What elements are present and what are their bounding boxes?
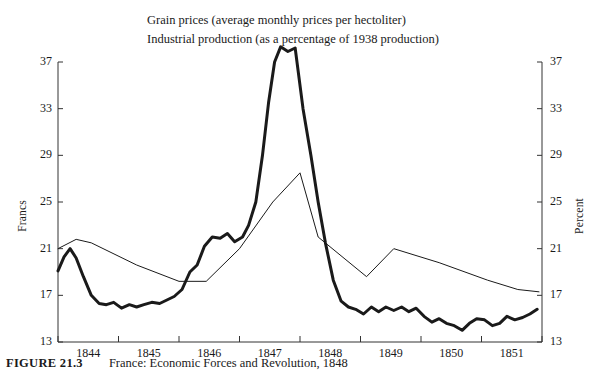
y-tick-left-21: 21 bbox=[26, 241, 52, 256]
figure-number: FIGURE 21.3 bbox=[6, 356, 83, 370]
y-tick-left-29: 29 bbox=[26, 147, 52, 162]
y-tick-right-13: 13 bbox=[550, 334, 576, 349]
figure-container: Grain prices (average monthly prices per… bbox=[0, 0, 598, 371]
series-line-grain bbox=[58, 47, 537, 331]
y-tick-left-33: 33 bbox=[26, 101, 52, 116]
x-tick-1851: 1851 bbox=[483, 346, 541, 361]
y-tick-left-25: 25 bbox=[26, 194, 52, 209]
y-tick-right-37: 37 bbox=[550, 54, 576, 69]
plot-area bbox=[0, 0, 598, 371]
chart-svg bbox=[0, 0, 598, 371]
x-tick-1850: 1850 bbox=[422, 346, 480, 361]
y-tick-left-17: 17 bbox=[26, 287, 52, 302]
y-tick-left-37: 37 bbox=[26, 54, 52, 69]
y-tick-right-17: 17 bbox=[550, 287, 576, 302]
figure-caption-text: France: Economic Forces and Revolution, … bbox=[109, 356, 348, 370]
y-tick-right-33: 33 bbox=[550, 101, 576, 116]
y-tick-right-21: 21 bbox=[550, 241, 576, 256]
series-line-industrial bbox=[58, 173, 539, 292]
y-tick-right-29: 29 bbox=[550, 147, 576, 162]
x-tick-1849: 1849 bbox=[362, 346, 420, 361]
figure-caption: FIGURE 21.3France: Economic Forces and R… bbox=[6, 356, 348, 371]
y-tick-left-13: 13 bbox=[26, 334, 52, 349]
y-tick-right-25: 25 bbox=[550, 194, 576, 209]
